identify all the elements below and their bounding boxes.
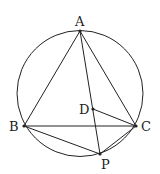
- segment-CP: [100, 126, 136, 154]
- geometry-diagram: A B C D P: [0, 0, 160, 174]
- label-P: P: [101, 157, 110, 172]
- segment-AB: [24, 31, 80, 126]
- label-B: B: [9, 119, 19, 134]
- point-C-dot: [134, 124, 137, 127]
- point-P-dot: [98, 152, 101, 155]
- segment-AP: [80, 31, 100, 154]
- point-D-dot: [91, 107, 94, 110]
- label-A: A: [74, 14, 85, 29]
- point-A-dot: [78, 29, 81, 32]
- segment-BP: [24, 126, 100, 154]
- label-C: C: [141, 119, 151, 134]
- circumcircle: [17, 31, 143, 157]
- segment-DC: [93, 109, 136, 126]
- point-B-dot: [22, 124, 25, 127]
- label-D: D: [79, 102, 89, 117]
